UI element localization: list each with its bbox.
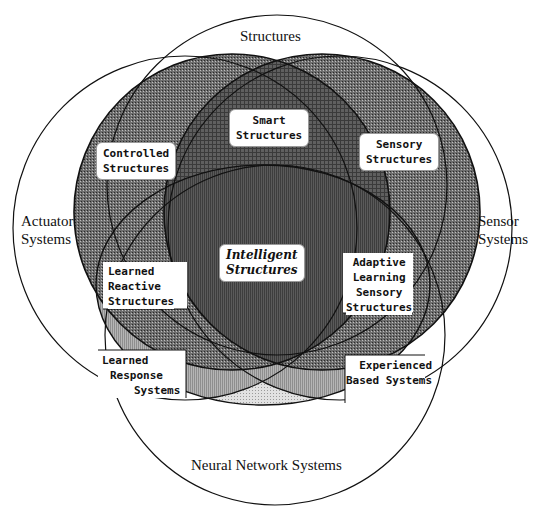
set-label-sensor-systems: Sensor Systems <box>478 212 528 248</box>
label-line: Sensor <box>478 212 528 230</box>
label-line: Adaptive <box>346 255 412 270</box>
label-line: Smart <box>236 113 302 128</box>
label-line: Structures <box>346 300 412 315</box>
region-label-smart-structures: Smart Structures <box>229 109 309 147</box>
set-label-structures: Structures <box>240 27 301 45</box>
label-line: Sensory <box>366 137 432 152</box>
label-line: Actuator <box>21 212 73 230</box>
region-label-intelligent-structures: Intelligent Structures <box>219 244 305 282</box>
label-line: Systems <box>21 230 73 248</box>
label-line: Systems <box>102 383 180 398</box>
label-line: Structures <box>103 161 169 176</box>
region-label-sensory-structures: Sensory Structures <box>359 133 439 171</box>
region-label-learned-response-systems: Learned Response Systems <box>102 353 180 398</box>
label-line: Reactive <box>108 279 174 294</box>
label-line: Response <box>102 368 180 383</box>
label-line: Learning <box>346 270 412 285</box>
region-label-controlled-structures: Controlled Structures <box>96 142 176 180</box>
venn-diagram: Structures Actuator Systems Sensor Syste… <box>0 0 555 515</box>
label-line: Controlled <box>103 146 169 161</box>
region-label-learned-reactive-structures: Learned Reactive Structures <box>108 264 174 309</box>
label-line: Learned <box>108 264 174 279</box>
region-label-experienced-based-systems: Experienced Based Systems <box>346 358 432 388</box>
label-line: Sensory <box>346 285 412 300</box>
region-label-adaptive-learning-sensory-structures: Adaptive Learning Sensory Structures <box>346 255 412 315</box>
label-line: Structures <box>236 128 302 143</box>
label-line: Experienced <box>346 358 432 373</box>
label-line: Structures <box>226 263 298 278</box>
label-line: Structures <box>108 294 174 309</box>
set-label-neural-network-systems: Neural Network Systems <box>191 456 342 474</box>
label-line: Based Systems <box>346 373 432 388</box>
label-line: Intelligent <box>226 248 298 263</box>
set-label-actuator-systems: Actuator Systems <box>21 212 73 248</box>
label-line: Learned <box>102 353 180 368</box>
label-line: Structures <box>366 152 432 167</box>
label-line: Systems <box>478 230 528 248</box>
